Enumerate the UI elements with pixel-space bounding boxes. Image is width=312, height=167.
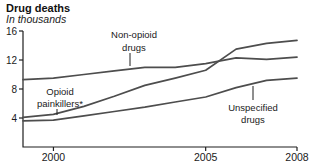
line-non_opioid_drugs [23,57,297,80]
label-unspecified_drugs-line2: drugs [241,114,265,125]
drug-deaths-figure: { "header": { "title": "Drug deaths", "s… [0,0,312,167]
x-tick-label-2000: 2000 [42,151,66,163]
label-non_opioid_drugs-line2: drugs [122,42,146,53]
label-unspecified_drugs-line1: Unspecified [228,102,278,113]
label-opioid_painkillers-line1: Opioid [46,86,73,97]
x-tick-label-2005: 2005 [194,151,218,163]
label-non_opioid_drugs-line1: Non-opioid [111,29,157,40]
label-opioid_painkillers-line2: painkillers* [37,98,83,109]
y-tick-label-12: 12 [6,55,18,66]
y-tick-label-16: 16 [6,26,18,37]
drug-deaths-chart: 161284200020052008Non-opioiddrugsOpioidp… [0,0,312,167]
y-tick-label-4: 4 [11,113,17,124]
y-tick-label-8: 8 [11,84,17,95]
x-tick-label-2008: 2008 [285,151,309,163]
